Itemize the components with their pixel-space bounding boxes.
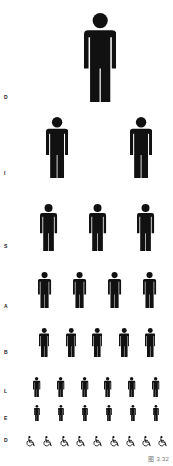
person-icon: [119, 328, 130, 361]
figure-caption: 图 3.32: [148, 454, 169, 463]
wheelchair-icon: [125, 433, 136, 451]
wheelchair-icon: [92, 433, 103, 451]
row-label-e: E: [4, 416, 7, 421]
wheelchair-icon: [75, 433, 86, 451]
person-icon: [128, 377, 135, 401]
person-icon: [40, 204, 57, 255]
row-label-i: I: [4, 171, 5, 176]
row-label-d: D: [4, 95, 8, 100]
wheelchair-icon: [141, 433, 152, 451]
person-icon: [73, 272, 86, 312]
person-icon: [130, 405, 136, 425]
wheelchair-icon: [42, 433, 53, 451]
person-icon: [104, 377, 111, 401]
person-icon: [89, 204, 106, 255]
person-icon: [57, 377, 64, 401]
person-icon: [92, 328, 103, 361]
wheelchair-icon: [157, 433, 168, 451]
person-icon: [81, 377, 88, 401]
row-label-b: B: [4, 350, 8, 355]
wheelchair-icon: [109, 433, 120, 451]
person-icon: [145, 328, 156, 361]
person-icon: [46, 117, 68, 182]
person-icon: [33, 377, 40, 401]
person-icon: [84, 13, 116, 106]
row-label-l: L: [4, 389, 7, 394]
person-icon: [137, 204, 154, 255]
person-icon: [130, 117, 152, 182]
row-label-a: A: [4, 304, 8, 309]
person-icon: [143, 272, 156, 312]
person-icon: [153, 405, 159, 425]
person-icon: [108, 272, 121, 312]
row-label-d: D: [4, 438, 8, 443]
person-icon: [58, 405, 64, 425]
wheelchair-icon: [59, 433, 70, 451]
person-icon: [82, 405, 88, 425]
person-icon: [39, 328, 50, 361]
person-icon: [66, 328, 77, 361]
person-icon: [152, 377, 159, 401]
person-icon: [106, 405, 112, 425]
person-icon: [34, 405, 40, 425]
wheelchair-icon: [25, 433, 36, 451]
row-label-s: S: [4, 244, 7, 249]
person-icon: [38, 272, 51, 312]
disabled-eye-chart: DISABLED: [0, 0, 173, 466]
